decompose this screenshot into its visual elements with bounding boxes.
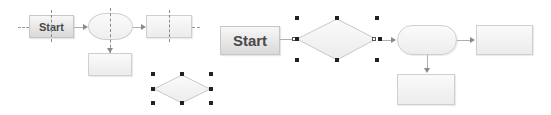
resize-handle[interactable] — [295, 58, 299, 62]
connector — [427, 55, 428, 69]
resize-handle[interactable] — [295, 37, 299, 41]
resize-handle[interactable] — [335, 58, 339, 62]
connection-point[interactable] — [372, 37, 376, 41]
process-below-shape[interactable] — [397, 74, 455, 105]
connector — [457, 40, 470, 41]
process-right-shape[interactable] — [476, 25, 533, 55]
arrow-right-icon — [470, 37, 475, 43]
arrow-right-icon — [391, 37, 396, 43]
resize-handle[interactable] — [375, 58, 379, 62]
resize-handle[interactable] — [375, 16, 379, 20]
arrow-down-icon — [424, 68, 430, 73]
decision-diamond-large[interactable] — [0, 0, 551, 115]
resize-handle[interactable] — [295, 16, 299, 20]
terminator-pill-shape[interactable] — [397, 25, 457, 55]
resize-handle[interactable] — [335, 16, 339, 20]
